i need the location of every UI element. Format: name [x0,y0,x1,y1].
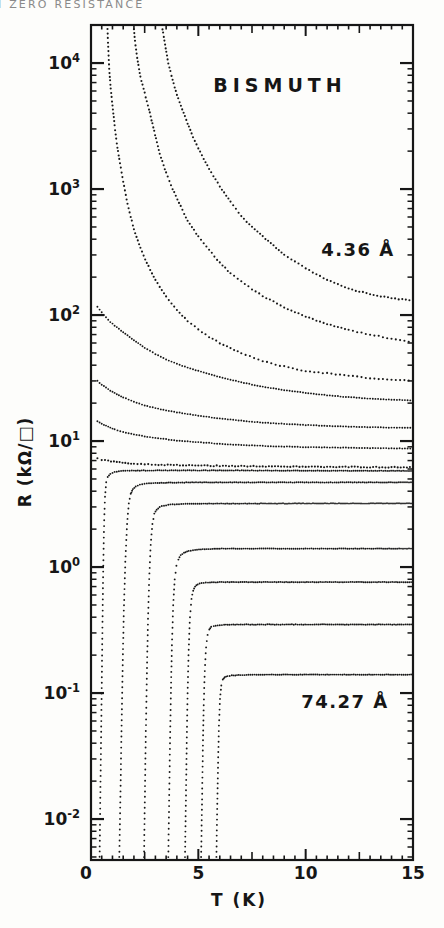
series-film-13 [200,623,412,858]
y-ticks [91,63,413,857]
series-film-08 [99,469,412,858]
label-thickest-film: 74.27 Å [301,690,389,712]
chart-title: BISMUTH [213,74,346,96]
series-film-04 [96,306,411,402]
series-film-09 [118,481,412,858]
series-film-12 [184,581,412,858]
series-film-01 [161,28,410,301]
y-tick-label-1e4: 104 [48,51,80,73]
page-header-fragment: N ZERO RESISTANCE [0,0,144,11]
x-tick-label-10: 10 [294,863,318,883]
plot-frame [91,25,413,860]
y-axis-title: R (kΩ/□) [15,417,35,508]
y-tick-labels: 10410310210110010-110-2 [44,51,80,829]
x-tick-label-5: 5 [192,863,204,883]
series-film-06 [96,420,411,449]
scanned-figure-page: N ZERO RESISTANCE 10410310210110010-110-… [0,0,444,928]
x-tick-label-15: 15 [401,863,425,883]
y-tick-label-1e0: 100 [48,555,80,577]
x-axis-title: T (K) [211,890,267,910]
annotations: BISMUTH4.36 Å74.27 Å [213,74,395,712]
x-tick-label-0: 0 [80,863,92,883]
x-tick-labels: 051015 [80,863,425,883]
resistance-vs-temperature-chart: 10410310210110010-110-2051015T (K)R (kΩ/… [0,0,444,928]
series-film-05 [96,380,411,429]
y-tick-label-1e2: 102 [48,303,80,325]
series-film-10 [143,502,412,858]
x-ticks [91,25,413,860]
label-thinnest-film: 4.36 Å [321,238,395,260]
x-axis-label: T (K) [211,890,267,910]
series-film-07 [96,457,411,468]
y-tick-label-1e3: 103 [48,177,80,199]
y-axis-label: R (kΩ/□) [15,417,35,508]
y-tick-label-1e-2: 10-2 [44,807,80,829]
y-tick-label-1e1: 101 [48,429,80,451]
y-tick-label-1e-1: 10-1 [44,681,80,703]
